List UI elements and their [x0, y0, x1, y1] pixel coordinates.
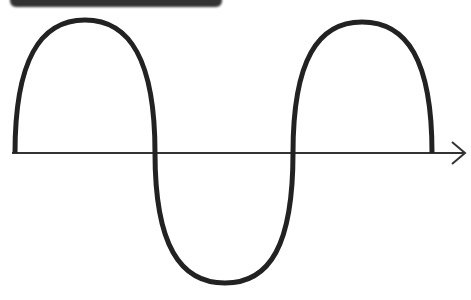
x-axis	[12, 142, 465, 164]
sine-wave-diagram	[0, 0, 471, 300]
sine-curve	[15, 20, 432, 283]
